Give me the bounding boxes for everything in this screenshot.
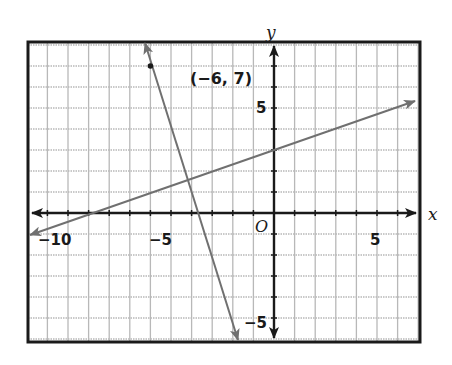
- point-marker: [148, 63, 154, 69]
- coordinate-graph: x y O −10 −5 5 5 −5 (−6, 7): [0, 0, 452, 365]
- plotted-line-2: [30, 101, 415, 235]
- x-tick-label-neg10: −10: [38, 231, 71, 249]
- origin-label: O: [255, 217, 268, 236]
- x-tick-label-neg5: −5: [149, 231, 172, 249]
- y-tick-label-5: 5: [256, 99, 266, 117]
- x-axis-label: x: [428, 204, 438, 224]
- y-axis-label: y: [265, 22, 276, 42]
- x-tick-label-5: 5: [370, 231, 380, 249]
- point-label: (−6, 7): [190, 69, 252, 88]
- labels: x y O −10 −5 5 5 −5 (−6, 7): [38, 22, 438, 332]
- y-tick-label-neg5: −5: [244, 314, 267, 332]
